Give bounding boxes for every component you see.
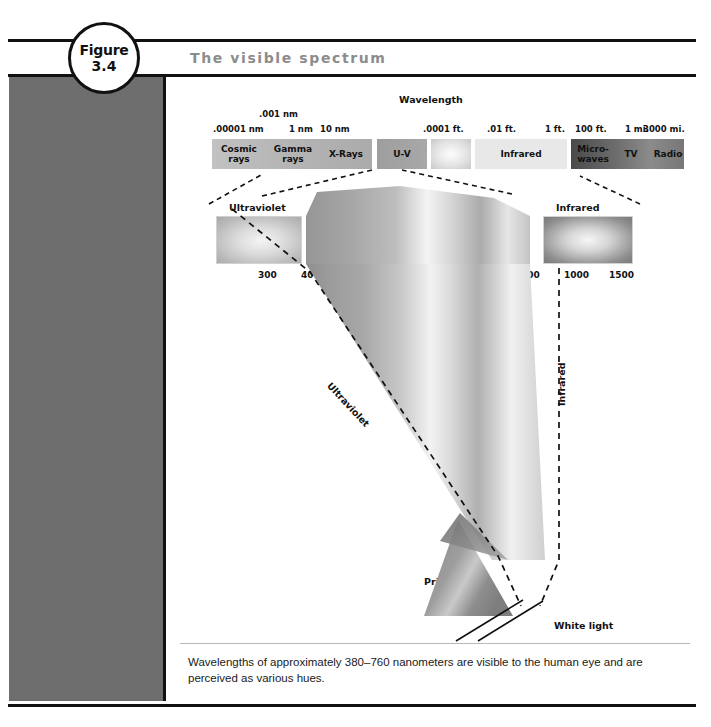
band-microwaves: Micro- waves (571, 139, 615, 169)
band-x-rays-label: X-Rays (329, 149, 363, 159)
figure-title: The visible spectrum (190, 50, 386, 66)
band-cosmic-rays-line2: rays (228, 154, 249, 164)
tick-1ft: 1 ft. (545, 124, 565, 134)
band-radio-label: Radio (654, 149, 683, 159)
tick-01ft: .01 ft. (487, 124, 516, 134)
figure-badge-number: 3.4 (92, 58, 117, 74)
band-gamma-rays-line1: Gamma (274, 144, 312, 154)
left-color-panel (9, 77, 166, 701)
scale-500: 500 (379, 270, 398, 280)
figure-page: Figure 3.4 The visible spectrum Waveleng… (0, 0, 711, 727)
tick-10nm: 10 nm (320, 124, 350, 134)
tick-00001nm: .00001 nm (213, 124, 264, 134)
em-spectrum-bar: Cosmic rays Gamma rays X-Rays U-V Infrar… (212, 139, 684, 169)
band-infrared: Infrared (475, 139, 567, 169)
band-cosmic-rays: Cosmic rays (212, 139, 266, 169)
band-radio: Radio (647, 139, 689, 169)
footer-rule (8, 704, 696, 707)
caption-rule (180, 643, 690, 644)
band-x-rays: X-Rays (320, 139, 372, 169)
tick-100ft: 100 ft. (575, 124, 607, 134)
ultraviolet-panel-label: Ultraviolet (229, 202, 286, 213)
band-gamma-rays-line2: rays (282, 154, 303, 164)
wavelength-heading: Wavelength (399, 94, 463, 105)
scale-600: 600 (458, 270, 477, 280)
tick-1nm: 1 nm (289, 124, 313, 134)
visible-spectrum-label: Visible spectrum (374, 203, 464, 214)
infrared-inset-image (543, 216, 633, 264)
figure-plate (169, 77, 696, 701)
ultraviolet-inset-image (216, 216, 302, 264)
scale-300: 300 (258, 270, 277, 280)
scale-1500: 1500 (609, 270, 634, 280)
tick-001nm: .001 nm (259, 109, 298, 119)
infrared-panel-label: Infrared (556, 202, 599, 213)
band-microwaves-line1: Micro- (577, 144, 609, 154)
band-tv: TV (615, 139, 647, 169)
prism-label: Prism (424, 576, 454, 587)
band-microwaves-line2: waves (577, 154, 609, 164)
tick-0001ft: .0001 ft. (423, 124, 464, 134)
infrared-ray-label: Infrared (556, 363, 567, 406)
figure-badge-word: Figure (80, 43, 129, 58)
band-tv-label: TV (624, 149, 637, 159)
figure-caption: Wavelengths of approximately 380–760 nan… (188, 654, 688, 686)
tick-3000mi: 3000 mi. (643, 124, 685, 134)
scale-700: 700 (521, 270, 540, 280)
band-infrared-label: Infrared (500, 149, 541, 159)
band-gamma-rays: Gamma rays (266, 139, 320, 169)
scale-1000: 1000 (564, 270, 589, 280)
band-uv-label: U-V (393, 149, 410, 159)
band-visible (431, 139, 471, 169)
band-uv: U-V (377, 139, 427, 169)
wavelength-axis-title: Wavelength (nanometers) (355, 285, 488, 295)
figure-badge: Figure 3.4 (68, 22, 140, 94)
band-cosmic-rays-line1: Cosmic (221, 144, 257, 154)
scale-400: 400 (301, 270, 320, 280)
white-light-label: White light (554, 620, 613, 631)
